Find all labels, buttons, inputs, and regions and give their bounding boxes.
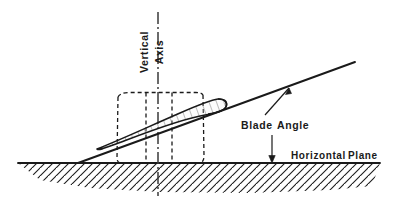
blade-angle-label-word2: Angle xyxy=(277,119,309,131)
blade-chord-line xyxy=(78,62,355,163)
vertical-axis-label-group: Vertical Axis xyxy=(138,31,165,73)
blade-angle-diagram: Vertical Axis Blade Angle Horizontal Pla… xyxy=(0,0,397,203)
horizontal-plane-label-word2: Plane xyxy=(348,150,378,161)
ground-hatching xyxy=(10,163,390,199)
blade-angle-label-word1: Blade xyxy=(241,119,273,131)
airfoil-section-tint xyxy=(97,99,227,150)
horizontal-plane-leader-down xyxy=(269,135,275,163)
horizontal-plane-label-group: Horizontal Plane xyxy=(291,150,378,161)
blade-angle-label-group: Blade Angle xyxy=(241,119,309,131)
vertical-axis-label-line2: Axis xyxy=(153,40,165,65)
blade-angle-leader-up xyxy=(265,88,292,115)
vertical-axis-label-line1: Vertical xyxy=(138,31,150,73)
horizontal-plane-label-word1: Horizontal xyxy=(291,150,346,161)
